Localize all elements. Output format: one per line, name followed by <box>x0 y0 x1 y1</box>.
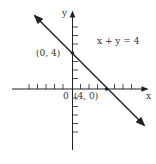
x-axis-label: x <box>146 91 151 101</box>
x-axis <box>12 84 147 89</box>
y-axis-label: y <box>61 8 68 18</box>
x-intercept-point <box>105 87 109 91</box>
equation-label: x + y = 4 <box>97 36 140 46</box>
graph-canvas: y x 0 (0, 4) (4, 0) x + y = 4 <box>0 0 156 164</box>
equation-line <box>35 16 144 125</box>
y-intercept-label: (0, 4) <box>36 48 60 58</box>
y-intercept-point <box>71 51 75 55</box>
y-axis <box>73 12 79 150</box>
x-intercept-label: (4, 0) <box>74 91 98 101</box>
origin-label: 0 <box>63 91 69 101</box>
